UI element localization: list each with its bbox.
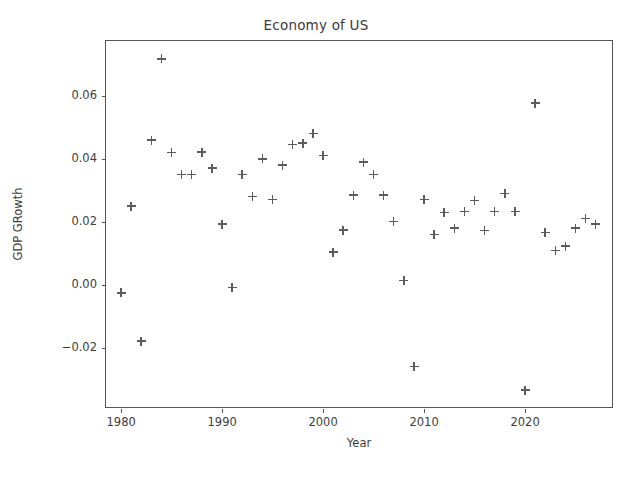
scatter-point xyxy=(521,386,530,395)
scatter-point xyxy=(460,207,469,216)
scatter-point xyxy=(591,220,600,229)
scatter-point xyxy=(127,202,136,211)
scatter-point xyxy=(389,217,398,226)
x-axis-tick xyxy=(323,409,324,413)
scatter-point xyxy=(258,154,267,163)
scatter-points-layer xyxy=(106,41,612,407)
scatter-point xyxy=(369,170,378,179)
scatter-point xyxy=(329,248,338,257)
y-axis-tick-label: −0.02 xyxy=(62,340,97,354)
scatter-point xyxy=(157,54,166,63)
scatter-point xyxy=(349,191,358,200)
scatter-point xyxy=(117,288,126,297)
scatter-point xyxy=(147,136,156,145)
scatter-point xyxy=(440,208,449,217)
scatter-point xyxy=(278,161,287,170)
plot-area: 19801990200020102020 xyxy=(105,40,613,408)
scatter-point xyxy=(511,207,520,216)
x-axis-tick xyxy=(525,409,526,413)
scatter-point xyxy=(531,99,540,108)
y-axis-label: GDP GRowth xyxy=(11,188,25,261)
y-axis-tick xyxy=(102,159,106,160)
x-axis-tick-label: 2000 xyxy=(308,415,337,429)
scatter-point xyxy=(430,230,439,239)
scatter-point xyxy=(187,170,196,179)
matplotlib-figure: Economy of US −0.020.000.020.040.06 1980… xyxy=(0,0,632,488)
scatter-point xyxy=(208,164,217,173)
y-axis-tick xyxy=(102,348,106,349)
scatter-point xyxy=(238,170,247,179)
y-axis-tick-label: 0.02 xyxy=(71,214,97,228)
scatter-point xyxy=(197,148,206,157)
y-axis-tick-label: 0.04 xyxy=(71,151,97,165)
x-axis-tick xyxy=(424,409,425,413)
scatter-point xyxy=(410,362,419,371)
x-axis-tick-label: 2010 xyxy=(409,415,438,429)
scatter-point xyxy=(500,189,509,198)
x-axis-tick-label: 1990 xyxy=(208,415,237,429)
scatter-point xyxy=(379,191,388,200)
scatter-point xyxy=(228,283,237,292)
x-axis-tick xyxy=(121,409,122,413)
x-axis-tick xyxy=(222,409,223,413)
chart-title: Economy of US xyxy=(0,17,632,33)
scatter-point xyxy=(309,129,318,138)
y-axis-tick xyxy=(102,285,106,286)
x-axis-tick-label: 2020 xyxy=(510,415,539,429)
y-axis-tick xyxy=(102,222,106,223)
y-axis-tick-label: 0.06 xyxy=(71,88,97,102)
scatter-point xyxy=(248,192,257,201)
scatter-point xyxy=(450,224,459,233)
scatter-point xyxy=(339,226,348,235)
scatter-point xyxy=(490,207,499,216)
scatter-point xyxy=(571,224,580,233)
y-axis-tick-label: 0.00 xyxy=(71,277,97,291)
scatter-point xyxy=(288,140,297,149)
scatter-point xyxy=(470,196,479,205)
scatter-point xyxy=(399,276,408,285)
scatter-point xyxy=(319,151,328,160)
scatter-point xyxy=(359,158,368,167)
scatter-point xyxy=(561,242,570,251)
scatter-point xyxy=(298,139,307,148)
x-axis-label: Year xyxy=(105,436,613,450)
scatter-point xyxy=(541,228,550,237)
scatter-point xyxy=(167,148,176,157)
scatter-point xyxy=(581,214,590,223)
scatter-point xyxy=(551,246,560,255)
y-axis-tick xyxy=(102,96,106,97)
scatter-point xyxy=(420,195,429,204)
scatter-point xyxy=(218,220,227,229)
scatter-point xyxy=(268,195,277,204)
scatter-point xyxy=(137,337,146,346)
x-axis-tick-label: 1980 xyxy=(107,415,136,429)
scatter-point xyxy=(177,170,186,179)
scatter-point xyxy=(480,226,489,235)
